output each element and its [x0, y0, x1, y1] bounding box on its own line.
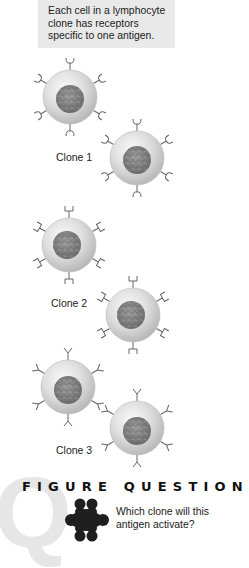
- question-line: Which clone will this: [116, 506, 209, 519]
- antigen-cluster-icon: [64, 497, 110, 543]
- clone-2-label: Clone 2: [51, 297, 87, 309]
- clone-2-cell-b: [97, 276, 169, 354]
- clone-2-cell-a: [33, 206, 105, 284]
- q-watermark: Q: [0, 462, 72, 562]
- question-line: antigen activate?: [116, 519, 209, 532]
- clone-1-cell-a: [34, 58, 106, 136]
- clone-3-cell-a: [32, 348, 104, 426]
- figure-question-heading: FIGURE QUESTION: [22, 479, 249, 494]
- clone-3-cell-b: [101, 389, 173, 467]
- clone-1-label: Clone 1: [56, 151, 92, 163]
- figure-question-text: Which clone will this antigen activate?: [116, 506, 209, 531]
- clone-1-cell-b: [101, 119, 173, 197]
- clone-3-label: Clone 3: [56, 444, 92, 456]
